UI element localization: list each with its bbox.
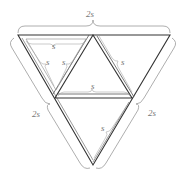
label-middle-edge: s bbox=[91, 82, 95, 91]
label-left-side: 2s bbox=[32, 110, 40, 119]
top-brace bbox=[18, 20, 170, 33]
label-upper-right-edge: s bbox=[121, 58, 125, 67]
lower-right-brace bbox=[94, 104, 128, 158]
label-inner-right: s bbox=[62, 58, 66, 67]
triangle-diagram: 2s s s s s s 2s 2s s bbox=[0, 0, 183, 178]
right-brace bbox=[96, 38, 176, 168]
label-right-side: 2s bbox=[148, 109, 156, 118]
upper-right-brace bbox=[99, 36, 132, 92]
label-lower-right-edge: s bbox=[101, 124, 105, 133]
label-inner-left: s bbox=[46, 58, 50, 67]
label-top-side: 2s bbox=[86, 10, 94, 19]
left-brace bbox=[10, 38, 90, 168]
right-inner-double-line bbox=[97, 36, 134, 97]
label-inner-top: s bbox=[52, 42, 56, 51]
inner-top-brace bbox=[26, 41, 86, 47]
outer-triangle bbox=[18, 35, 170, 165]
outer-left-double-line bbox=[22, 38, 93, 160]
